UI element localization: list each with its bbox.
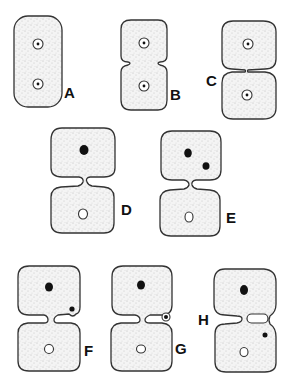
nucleus-open-icon (45, 345, 54, 354)
panel-b: B (121, 20, 181, 110)
cell-f (18, 266, 80, 371)
nucleus-solid-icon (80, 145, 89, 155)
nucleus-open-icon (240, 348, 248, 357)
panel-g: G (111, 266, 187, 371)
panel-d: D (51, 128, 132, 233)
nucleus-solid-icon (45, 283, 53, 292)
body-solid-icon (203, 162, 210, 170)
nucleus-open-icon (185, 212, 193, 222)
body-solid-icon (263, 333, 268, 338)
cell-c (222, 21, 276, 119)
label-f: F (84, 342, 93, 359)
label-b: B (170, 86, 181, 103)
nucleus-solid-icon (184, 149, 192, 158)
panel-f: F (18, 266, 93, 371)
nucleus-open-icon (137, 345, 146, 353)
cell-a (14, 16, 62, 107)
label-c: C (206, 72, 217, 89)
panel-h: H (198, 269, 276, 372)
label-d: D (121, 201, 132, 218)
nucleus-solid-icon (240, 285, 248, 295)
panel-c: C (206, 21, 276, 119)
label-g: G (175, 340, 187, 357)
constriction-channel (247, 314, 268, 323)
cell-division-diagram: A B C D E F (0, 0, 286, 381)
panel-a: A (14, 16, 75, 107)
body-solid-icon (69, 306, 74, 311)
nucleus-solid-icon (137, 281, 145, 290)
label-a: A (64, 84, 75, 101)
panel-e: E (160, 131, 236, 236)
cell-b (121, 20, 167, 110)
label-e: E (226, 209, 236, 226)
nucleus-open-icon (79, 209, 88, 219)
label-h: H (198, 311, 209, 328)
